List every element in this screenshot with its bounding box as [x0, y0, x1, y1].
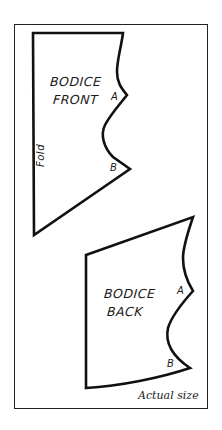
bodice-front-notch-b: B: [110, 163, 117, 173]
bodice-front-title-line2: FRONT: [53, 94, 99, 107]
bodice-front-outline: [33, 33, 130, 235]
bodice-back-outline: [86, 217, 193, 388]
scale-note: Actual size: [138, 390, 199, 401]
bodice-back-title-line2: BACK: [107, 306, 144, 319]
pattern-sheet: BODICE FRONT A B Fold BODICE BACK A B Ac…: [0, 0, 222, 430]
bodice-back-notch-a: A: [177, 286, 184, 296]
pattern-pieces-drawing: [0, 0, 222, 430]
bodice-back-notch-b: B: [167, 359, 174, 369]
bodice-back-title-line1: BODICE: [104, 288, 156, 301]
fold-label: Fold: [36, 144, 46, 167]
bodice-front-notch-a: A: [111, 92, 118, 102]
bodice-front-title-line1: BODICE: [50, 76, 102, 89]
